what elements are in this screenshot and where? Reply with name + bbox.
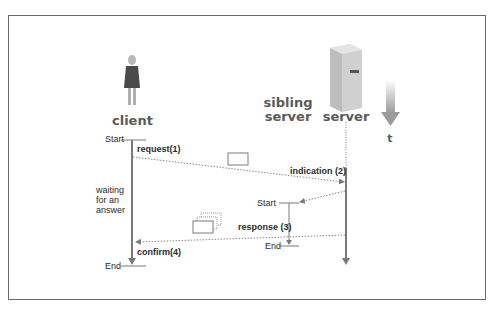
server-label: server <box>320 110 372 123</box>
client-person-icon <box>124 55 140 105</box>
client-end-label: End <box>105 261 121 271</box>
sibling-server-label-line2: server <box>258 110 318 123</box>
client-label: client <box>112 114 152 127</box>
sibling-start-label: Start <box>257 198 276 208</box>
response-label: response (3) <box>238 222 292 232</box>
request-message-icon <box>228 153 248 165</box>
waiting-label-line2: for an <box>96 195 119 205</box>
request-label: request(1) <box>137 144 181 154</box>
client-start-label: Start <box>105 134 124 144</box>
time-arrow-icon <box>381 80 400 126</box>
waiting-label-line3: answer <box>96 205 125 215</box>
sequence-diagram-graphics <box>0 0 496 309</box>
sibling-end-label: End <box>265 241 281 251</box>
sibling-server-label-line1: sibling <box>258 96 318 109</box>
waiting-label-line1: waiting <box>96 185 124 195</box>
indication-label: indication (2) <box>290 166 346 176</box>
response-message-icon <box>193 221 213 233</box>
server-tower-icon <box>330 44 362 112</box>
time-label: t <box>383 132 397 145</box>
confirm-label: confirm(4) <box>137 247 181 257</box>
